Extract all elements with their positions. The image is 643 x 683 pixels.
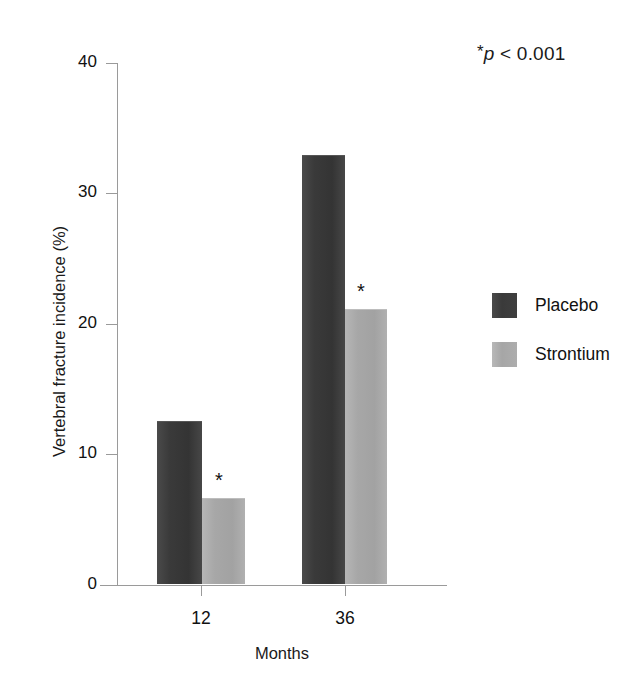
y-axis-title: Vertebral fracture incidence (%) [50,132,69,552]
legend-label-strontium: Strontium [535,344,610,365]
legend-swatch-placebo-icon [492,293,517,318]
significance-note-p: p [484,43,495,64]
y-tick-10: 10 [106,454,117,455]
significance-note-asterisk: * [477,42,484,61]
legend-swatch-strontium-icon [492,342,517,367]
y-tick-20: 20 [106,324,117,325]
y-tick-label-30: 30 [78,182,97,202]
legend-label-placebo: Placebo [535,295,598,316]
bar-placebo-12 [157,421,202,584]
significance-note: *p < 0.001 [477,42,565,65]
y-tick-40: 40 [106,63,117,64]
y-axis-line [117,63,118,586]
legend-item-strontium: Strontium [492,337,610,371]
x-axis-title: Months [117,644,447,663]
bar-strontium-12 [202,498,245,584]
x-tick-36 [345,585,346,596]
x-tick-label-36: 36 [315,608,375,629]
bar-strontium-36 [345,309,387,584]
legend: Placebo Strontium [492,288,610,386]
y-tick-label-0: 0 [88,574,97,594]
x-tick-label-12: 12 [171,608,231,629]
bar-placebo-36 [302,155,345,584]
x-axis-line [100,585,447,586]
legend-item-placebo: Placebo [492,288,610,322]
x-tick-12 [201,585,202,596]
significance-note-value: < 0.001 [495,43,566,64]
y-tick-label-20: 20 [78,313,97,333]
plot-area: 40 30 20 10 0 * * 12 36 Months [117,63,447,585]
y-tick-30: 30 [106,193,117,194]
y-tick-0: 0 [106,585,117,586]
y-tick-label-40: 40 [78,52,97,72]
bar-chart-figure: *p < 0.001 Vertebral fracture incidence … [0,0,643,683]
bar-star-12: * [215,470,223,490]
bar-star-36: * [357,281,365,301]
y-tick-label-10: 10 [78,443,97,463]
